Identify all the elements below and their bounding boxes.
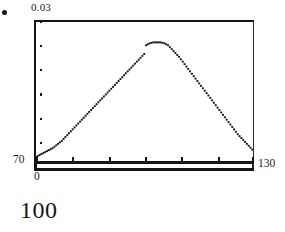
data-point [195, 78, 197, 80]
data-point [140, 57, 142, 59]
data-point [107, 92, 109, 94]
data-point [92, 107, 94, 109]
data-point [149, 42, 151, 44]
data-point [101, 97, 103, 99]
data-point [191, 73, 193, 75]
data-point [204, 90, 206, 92]
data-point [116, 82, 118, 84]
bullet-dot-icon [2, 10, 7, 15]
y-axis-tick [40, 93, 42, 95]
data-point [147, 43, 149, 45]
data-point [222, 114, 224, 116]
y-axis-max-label: 0.03 [31, 1, 51, 13]
data-point [86, 113, 88, 115]
data-point [160, 41, 162, 43]
data-point [99, 99, 101, 101]
data-point [97, 101, 99, 103]
y-axis-tick [40, 45, 42, 47]
x-axis-min-label: 70 [13, 153, 25, 166]
data-point [228, 121, 230, 123]
data-point [182, 61, 184, 63]
data-point [79, 121, 81, 123]
data-point [165, 43, 167, 45]
data-point [94, 105, 96, 107]
data-point [207, 95, 209, 97]
data-point [217, 107, 219, 109]
data-point [233, 128, 235, 130]
data-point [171, 48, 173, 50]
data-point [77, 123, 79, 125]
data-point [48, 149, 50, 151]
data-point [138, 59, 140, 61]
y-axis-tick [40, 118, 42, 120]
data-point [141, 55, 143, 57]
data-point [42, 152, 44, 154]
data-point [163, 42, 165, 44]
data-point [118, 80, 120, 82]
data-point [110, 88, 112, 90]
data-point [121, 76, 123, 78]
data-point [180, 58, 182, 60]
data-point [108, 90, 110, 92]
data-point [193, 75, 195, 77]
data-point [200, 85, 202, 87]
data-point [240, 137, 242, 139]
data-point [231, 126, 233, 128]
data-point [152, 41, 154, 43]
data-point [244, 141, 246, 143]
data-point [151, 42, 153, 44]
data-point [68, 132, 70, 134]
data-point [129, 68, 131, 70]
y-axis-tick [40, 142, 42, 144]
data-point [143, 53, 145, 55]
data-point [119, 78, 121, 80]
data-point [96, 103, 98, 105]
distribution-curve [36, 22, 253, 165]
data-point [206, 92, 208, 94]
data-point [156, 41, 158, 43]
data-point [173, 50, 175, 52]
data-point [64, 136, 66, 138]
data-point [237, 133, 239, 135]
data-point [187, 68, 189, 70]
data-point [213, 102, 215, 104]
plot-area [36, 22, 253, 165]
x-axis-max-label: 130 [258, 157, 275, 170]
data-point [178, 56, 180, 58]
figure-caption: 100 [20, 196, 58, 224]
frame-bottom-rule [34, 168, 254, 171]
data-point [154, 41, 156, 43]
data-point [59, 141, 61, 143]
data-point [53, 146, 55, 148]
data-point [114, 84, 116, 86]
data-point [136, 61, 138, 63]
data-point [202, 87, 204, 89]
data-point [75, 125, 77, 127]
data-point [145, 44, 147, 46]
data-point [239, 135, 241, 137]
data-point [55, 144, 57, 146]
data-point [251, 149, 253, 151]
data-point [127, 70, 129, 72]
data-point [224, 116, 226, 118]
data-point [134, 63, 136, 65]
data-point [130, 67, 132, 69]
data-point [176, 54, 178, 56]
data-point [125, 72, 127, 74]
data-point [50, 148, 52, 150]
data-point [74, 126, 76, 128]
data-point [66, 134, 68, 136]
data-point [226, 119, 228, 121]
data-point [88, 111, 90, 113]
data-point [162, 42, 164, 44]
data-point [46, 150, 48, 152]
data-point [174, 52, 176, 54]
data-point [198, 82, 200, 84]
data-point [83, 117, 85, 119]
data-point [211, 99, 213, 101]
data-point [184, 63, 186, 65]
data-point [246, 143, 248, 145]
data-point [85, 115, 87, 117]
data-point [242, 139, 244, 141]
data-point [220, 111, 222, 113]
